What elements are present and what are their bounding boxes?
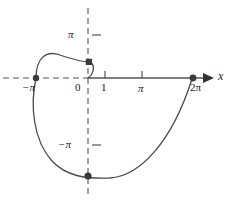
y-tick-label-neg-pi: −π xyxy=(58,139,71,150)
x-tick-label-two-pi: 2π xyxy=(190,82,201,93)
point-bottom xyxy=(84,172,91,179)
curve-lower-sweep xyxy=(33,78,192,178)
x-tick-label-1: 1 xyxy=(101,82,107,93)
y-tick-label-pi: π xyxy=(68,29,74,40)
x-axis-name-label: x xyxy=(218,70,223,82)
point-loop-top xyxy=(86,59,92,65)
x-tick-label-neg-pi: −π xyxy=(22,82,35,93)
x-tick-label-pi: π xyxy=(138,83,144,94)
x-axis-arrowhead xyxy=(203,73,214,83)
origin-label: 0 xyxy=(75,82,81,93)
math-figure: π −π 0 1 π 2π −π x xyxy=(0,0,230,205)
curve-upper-arch xyxy=(36,54,89,78)
plot-canvas xyxy=(0,0,230,205)
